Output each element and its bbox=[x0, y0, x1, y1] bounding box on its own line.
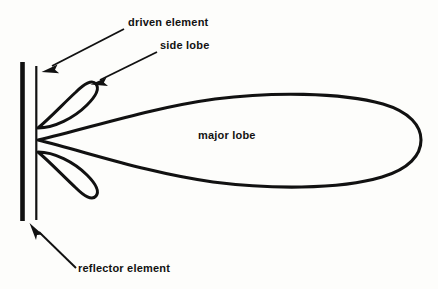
side-lobe-leader-line bbox=[100, 52, 157, 80]
lower-side-lobe-outline bbox=[38, 152, 97, 198]
driven-element-bar bbox=[35, 66, 37, 220]
reflector-element-arrowhead bbox=[30, 223, 43, 240]
upper-side-lobe-outline bbox=[38, 82, 97, 128]
driven-element-label: driven element bbox=[128, 16, 209, 28]
driven-element-leader-line bbox=[52, 29, 124, 66]
reflector-element-bar bbox=[20, 62, 25, 221]
reflector-element-label: reflector element bbox=[78, 262, 170, 274]
major-lobe-label: major lobe bbox=[198, 129, 256, 141]
radiation-pattern-canvas: driven element side lobe major lobe refl… bbox=[0, 0, 438, 289]
side-lobe-label: side lobe bbox=[160, 39, 209, 51]
antenna-pattern-diagram: driven element side lobe major lobe refl… bbox=[0, 0, 438, 289]
driven-element-arrowhead bbox=[42, 65, 60, 74]
reflector-element-leader-line bbox=[39, 232, 76, 268]
